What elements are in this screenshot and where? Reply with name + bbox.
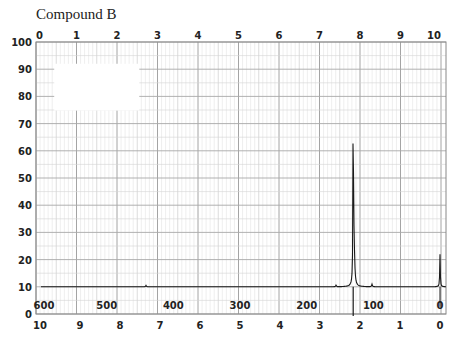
- masked-region: [54, 64, 139, 111]
- top-tick-label: 10: [427, 30, 441, 41]
- ppm-tick-label: 8: [117, 320, 124, 331]
- top-tick-label: 7: [316, 30, 323, 41]
- top-tick-label: 9: [397, 30, 404, 41]
- ppm-tick-label: 3: [317, 320, 324, 331]
- y-tick-label: 0: [25, 309, 32, 320]
- top-tick-label: 6: [276, 30, 283, 41]
- y-tick-label: 10: [18, 282, 32, 293]
- spectrum-trace: [41, 144, 446, 287]
- ppm-tick-label: 5: [237, 320, 244, 331]
- y-tick-label: 70: [18, 119, 32, 130]
- ppm-tick-label: 4: [277, 320, 284, 331]
- ppm-axis-labels: 109876543210: [33, 320, 443, 331]
- hz-tick-label: 200: [296, 300, 317, 311]
- ppm-tick-label: 2: [357, 320, 364, 331]
- top-tick-label: 0: [36, 30, 43, 41]
- ppm-tick-label: 9: [77, 320, 84, 331]
- ppm-tick-label: 10: [33, 320, 47, 331]
- ppm-tick-label: 1: [397, 320, 404, 331]
- y-tick-label: 50: [18, 173, 32, 184]
- y-tick-label: 20: [18, 255, 32, 266]
- hz-tick-label: 400: [163, 300, 184, 311]
- top-tick-label: 4: [195, 30, 202, 41]
- y-tick-label: 90: [18, 64, 32, 75]
- y-tick-label: 30: [18, 227, 32, 238]
- top-tick-label: 5: [235, 30, 242, 41]
- y-tick-label: 100: [11, 37, 32, 48]
- ppm-tick-label: 0: [437, 320, 444, 331]
- top-axis-labels: 012345678910: [36, 30, 441, 41]
- hz-tick-label: 500: [96, 300, 117, 311]
- hz-tick-label: 600: [34, 300, 55, 311]
- hz-tick-label: 100: [363, 300, 384, 311]
- y-axis-labels: 0102030405060708090100: [11, 37, 32, 320]
- top-tick-label: 3: [154, 30, 161, 41]
- ppm-tick-label: 6: [197, 320, 204, 331]
- nmr-spectrum-chart: 0102030405060708090100012345678910109876…: [0, 0, 472, 348]
- y-tick-label: 60: [18, 146, 32, 157]
- top-tick-label: 2: [114, 30, 121, 41]
- top-tick-label: 8: [357, 30, 364, 41]
- hz-scale-labels: 6005004003002001000: [34, 300, 444, 311]
- ppm-tick-label: 7: [157, 320, 164, 331]
- top-tick-label: 1: [73, 30, 80, 41]
- y-tick-label: 40: [18, 200, 32, 211]
- hz-tick-label: 300: [230, 300, 251, 311]
- y-tick-label: 80: [18, 91, 32, 102]
